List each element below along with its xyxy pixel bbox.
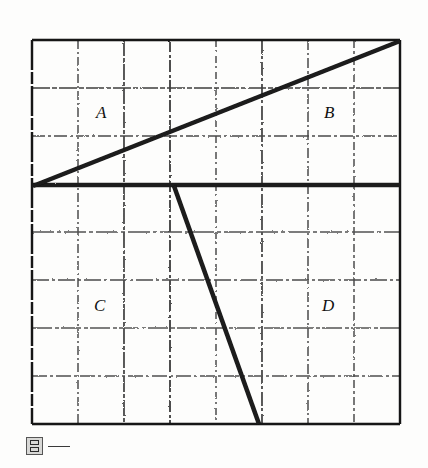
- figure-number-dash-icon: [48, 446, 70, 447]
- region-label-b: B: [324, 104, 334, 121]
- region-label-c: C: [94, 297, 105, 314]
- figure-container: A B C D 图一: [0, 0, 428, 468]
- figure-mark-icon: [26, 437, 43, 455]
- figure-canvas: [0, 0, 428, 468]
- grid-lines: [32, 40, 400, 424]
- region-label-d: D: [322, 297, 334, 314]
- region-label-a: A: [96, 104, 106, 121]
- figure-caption: 图一: [26, 437, 70, 455]
